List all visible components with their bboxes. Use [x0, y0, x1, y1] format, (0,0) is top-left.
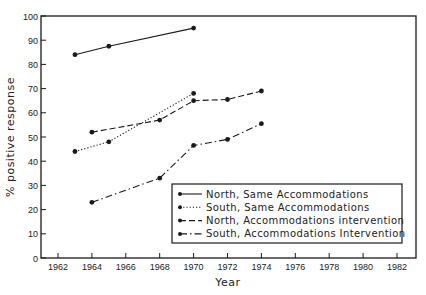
data-point [157, 176, 162, 181]
data-point [259, 121, 264, 126]
x-tick-label: 1970 [184, 262, 204, 272]
y-tick-label: 50 [28, 133, 38, 143]
series-line [75, 93, 194, 151]
series-dotted [73, 91, 196, 154]
legend-label: North, Same Accommodations [206, 189, 369, 200]
legend-item: South, Same Accommodations [178, 202, 370, 213]
data-point [90, 130, 95, 135]
x-tick-label: 1974 [251, 262, 271, 272]
x-axis-title: Year [214, 276, 240, 289]
data-point [191, 143, 196, 148]
legend: North, Same AccommodationsSouth, Same Ac… [172, 184, 405, 243]
x-tick-label: 1978 [319, 262, 339, 272]
y-tick-label: 90 [28, 36, 38, 46]
data-point [106, 44, 111, 49]
y-tick-label: 30 [28, 181, 38, 191]
data-point [191, 26, 196, 31]
x-tick-label: 1966 [116, 262, 136, 272]
data-point [225, 97, 230, 102]
legend-label: North, Accommodations intervention [206, 215, 404, 226]
x-tick-label: 1962 [48, 262, 68, 272]
legend-label: South, Same Accommodations [206, 202, 370, 213]
data-point [157, 118, 162, 123]
y-axis: 0102030405060708090100 [23, 12, 46, 264]
series-line [92, 91, 262, 132]
data-point [191, 91, 196, 96]
data-point [73, 52, 78, 57]
data-point [73, 149, 78, 154]
x-tick-label: 1982 [387, 262, 407, 272]
x-tick-label: 1980 [353, 262, 373, 272]
y-tick-label: 40 [28, 157, 38, 167]
legend-item: South, Accommodations Intervention [178, 228, 405, 239]
line-chart: 0102030405060708090100 19621964196619681… [0, 0, 426, 295]
y-tick-label: 0 [33, 254, 38, 264]
y-tick-label: 70 [28, 84, 38, 94]
legend-item: North, Accommodations intervention [178, 215, 404, 226]
data-point [225, 137, 230, 142]
series-line [75, 28, 194, 55]
x-axis: 1962196419661968197019721974197619781980… [48, 253, 407, 272]
x-tick-label: 1972 [217, 262, 237, 272]
data-series [73, 26, 264, 205]
legend-item: North, Same Accommodations [178, 189, 369, 200]
data-point [90, 200, 95, 205]
series-solid [73, 26, 196, 57]
x-tick-label: 1976 [285, 262, 305, 272]
series-dashed [90, 89, 264, 135]
y-tick-label: 10 [28, 229, 38, 239]
data-point [259, 89, 264, 94]
y-tick-label: 100 [23, 12, 38, 22]
y-axis-title: % positive response [4, 77, 17, 197]
x-tick-label: 1968 [150, 262, 170, 272]
y-tick-label: 20 [28, 205, 38, 215]
x-tick-label: 1964 [82, 262, 102, 272]
data-point [191, 98, 196, 103]
data-point [106, 139, 111, 144]
y-tick-label: 60 [28, 108, 38, 118]
y-tick-label: 80 [28, 60, 38, 70]
legend-label: South, Accommodations Intervention [206, 228, 405, 239]
